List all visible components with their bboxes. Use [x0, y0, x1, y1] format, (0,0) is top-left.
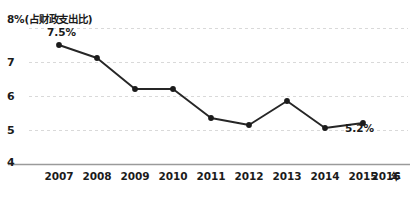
x-tick-label-2011: 2011 [196, 171, 225, 182]
gridlines [29, 29, 408, 131]
y-tick-label-6: 6 [7, 91, 15, 102]
data-point-markers [56, 42, 366, 131]
x-tick-label-2014: 2014 [310, 171, 339, 182]
x-tick-label-2010: 2010 [158, 171, 187, 182]
data-label-2015: 5.2% [345, 123, 374, 134]
data-label-2007: 7.5% [47, 27, 76, 38]
line-chart: 8%(占财政支出比) 7 6 5 4 2007 2008 2009 2010 2… [0, 0, 414, 197]
x-tick-label-2007: 2007 [44, 171, 73, 182]
x-tick-label-2008: 2008 [82, 171, 111, 182]
y-tick-label-7: 7 [7, 57, 15, 68]
y-axis-unit-label: 8%(占财政支出比) [7, 14, 92, 25]
y-tick-label-5: 5 [7, 125, 15, 136]
y-tick-label-4: 4 [7, 157, 15, 168]
x-axis-unit-label: 年 [391, 172, 401, 182]
x-tick-label-2009: 2009 [120, 171, 149, 182]
x-tick-label-2012: 2012 [234, 171, 263, 182]
x-tick-label-2013: 2013 [272, 171, 301, 182]
